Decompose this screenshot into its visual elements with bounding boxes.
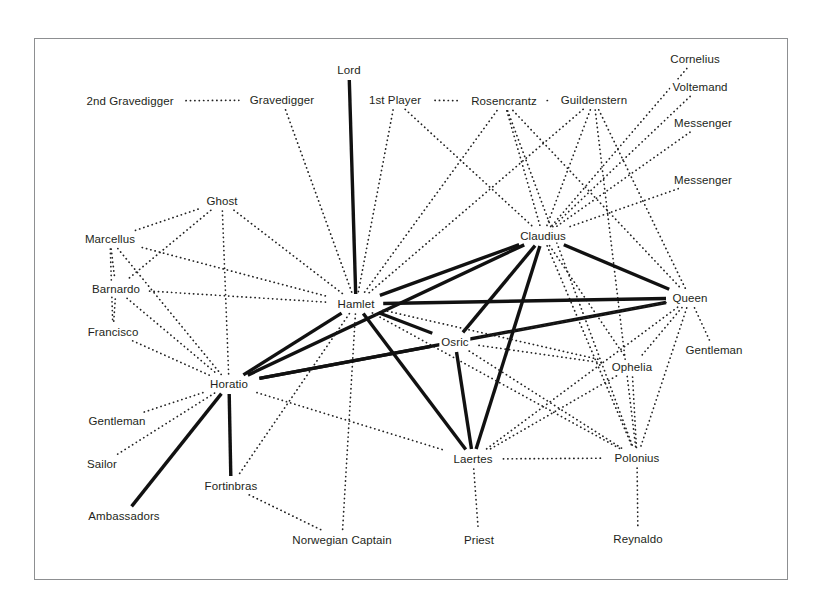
graph-node-label: Lord (335, 64, 362, 77)
graph-node-label: Osric (439, 336, 470, 349)
graph-node-label: Messenger (672, 117, 734, 130)
graph-node-label: Ghost (204, 195, 239, 208)
graph-node-label: Ophelia (610, 361, 654, 374)
graph-node-label: Norwegian Captain (290, 534, 394, 547)
graph-node-label: Horatio (208, 378, 250, 391)
graph-node-label: Hamlet (335, 298, 376, 311)
graph-node-label: 1st Player (367, 94, 423, 107)
graph-node-label: Claudius (518, 230, 568, 243)
graph-node-label: Sailor (85, 458, 119, 471)
graph-node-label: Polonius (613, 452, 662, 465)
graph-node-label: 2nd Gravedigger (84, 95, 175, 108)
figure-page: 2nd GravediggerGravediggerLord1st Player… (0, 0, 817, 614)
graph-node-label: Rosencrantz (469, 95, 539, 108)
graph-node-label: Gentleman (86, 415, 147, 428)
graph-node-label: Queen (670, 292, 709, 305)
graph-node-label: Laertes (451, 453, 494, 466)
graph-node-label: Fortinbras (203, 480, 260, 493)
graph-node-label: Reynaldo (611, 533, 664, 546)
graph-node-label: Francisco (86, 326, 141, 339)
graph-node-label: Ambassadors (86, 510, 161, 523)
graph-node-label: Guildenstern (559, 94, 629, 107)
graph-node-label: Cornelius (668, 53, 721, 66)
graph-node-label: Gravedigger (248, 94, 316, 107)
graph-node-label: Priest (462, 534, 496, 547)
graph-node-label: Barnardo (90, 283, 142, 296)
graph-node-label: Voltemand (670, 81, 729, 94)
graph-node-label: Marcellus (83, 233, 137, 246)
graph-node-label: Messenger (672, 174, 734, 187)
graph-node-label: Gentleman (683, 344, 744, 357)
